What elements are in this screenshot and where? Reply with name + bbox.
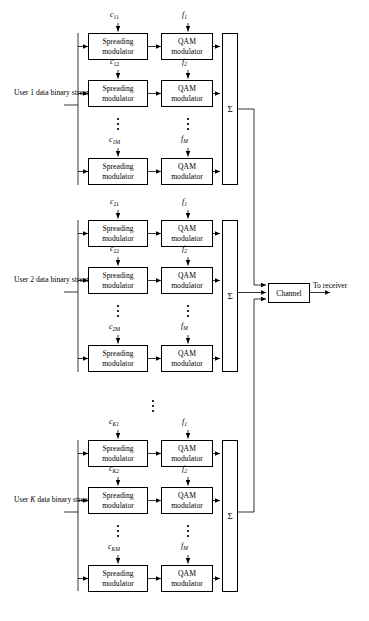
user-k-input-label: User K data binary stream [14, 495, 64, 505]
qam-modulator-u2-b3[interactable]: QAM modulator [161, 345, 213, 372]
qam-modulator-u1-b2[interactable]: QAM modulator [161, 80, 213, 107]
carrier-label-f1-uk: f1 [182, 418, 187, 426]
user-k-input-line-1: User K data [14, 495, 52, 504]
summation-block-u1: Σ [222, 33, 238, 185]
qam-modulator-u2-b2[interactable]: QAM modulator [161, 267, 213, 294]
code-label-cKM: cKM [108, 543, 120, 551]
code-label-c22: c22 [110, 245, 119, 253]
channel-block[interactable]: Channel [268, 283, 310, 303]
carrier-label-fM-u1: fM [181, 135, 188, 143]
code-label-c1M: c1M [109, 136, 120, 144]
user-2-input-line-1: User 2 data [14, 275, 49, 284]
code-label-c21: c21 [110, 198, 119, 206]
spreading-modulator-uk-b3[interactable]: Spreading modulator [88, 565, 148, 592]
to-receiver-label: To receiver [313, 282, 347, 290]
summation-block-u2: Σ [222, 220, 238, 372]
carrier-label-f1-u1: f1 [182, 11, 187, 19]
summation-block-uk: Σ [222, 440, 238, 592]
carrier-label-f2-uk: f2 [182, 465, 187, 473]
code-label-c2M: c2M [109, 323, 120, 331]
qam-modulator-u1-b3[interactable]: QAM modulator [161, 158, 213, 185]
carrier-label-f2-u2: f2 [182, 245, 187, 253]
code-label-cK2: cK2 [109, 465, 119, 473]
carrier-label-f1-u2: f1 [182, 198, 187, 206]
spreading-modulator-u1-b3[interactable]: Spreading modulator [88, 158, 148, 185]
spreading-modulator-u1-b1[interactable]: Spreading modulator [88, 33, 148, 60]
carrier-label-fM-u2: fM [181, 322, 188, 330]
spreading-modulator-uk-b1[interactable]: Spreading modulator [88, 440, 148, 467]
carrier-label-f2-u1: f2 [182, 58, 187, 66]
code-label-cK1: cK1 [109, 418, 119, 426]
user-2-input-label: User 2 data binary stream [14, 275, 64, 285]
qam-modulator-u2-b1[interactable]: QAM modulator [161, 220, 213, 247]
user-k-input-line-2: binary [52, 495, 71, 504]
ellipsis-u1-qam [182, 118, 194, 130]
block-diagram: User 1 data binary stream c11 f1 Spreadi… [0, 0, 369, 621]
code-label-c12: c12 [110, 58, 119, 66]
spreading-modulator-u2-b1[interactable]: Spreading modulator [88, 220, 148, 247]
qam-modulator-uk-b1[interactable]: QAM modulator [161, 440, 213, 467]
sigma-symbol: Σ [227, 291, 232, 301]
qam-modulator-uk-b3[interactable]: QAM modulator [161, 565, 213, 592]
sigma-symbol: Σ [227, 511, 232, 521]
user-1-input-line-1: User 1 data [14, 88, 49, 97]
user-1-input-line-2: binary [51, 88, 70, 97]
spreading-modulator-uk-b2[interactable]: Spreading modulator [88, 487, 148, 514]
ellipsis-uk-spreading [112, 525, 124, 537]
code-label-c11: c11 [110, 11, 119, 19]
ellipsis-uk-qam [182, 525, 194, 537]
spreading-modulator-u1-b2[interactable]: Spreading modulator [88, 80, 148, 107]
channel-label: Channel [276, 289, 301, 298]
ellipsis-u2-spreading [112, 305, 124, 317]
ellipsis-u1-spreading [112, 118, 124, 130]
qam-modulator-u1-b1[interactable]: QAM modulator [161, 33, 213, 60]
carrier-label-fM-uk: fM [181, 542, 188, 550]
spreading-modulator-u2-b2[interactable]: Spreading modulator [88, 267, 148, 294]
user-1-input-label: User 1 data binary stream [14, 88, 64, 98]
user-2-input-line-2: binary [51, 275, 70, 284]
ellipsis-between-users [147, 400, 159, 412]
spreading-modulator-u2-b3[interactable]: Spreading modulator [88, 345, 148, 372]
qam-modulator-uk-b2[interactable]: QAM modulator [161, 487, 213, 514]
sigma-symbol: Σ [227, 104, 232, 114]
ellipsis-u2-qam [182, 305, 194, 317]
